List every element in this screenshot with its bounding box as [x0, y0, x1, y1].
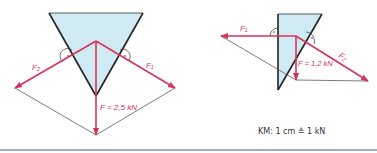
right-wedge-diagram: F₁ F₂ F = 1,2 kN	[221, 14, 368, 90]
label-f2-left: F₂	[32, 63, 40, 72]
force-diagrams: F₂ F₁ F = 2,5 kN F₁ F₂ F = 1,2 kN KM: 1 …	[0, 0, 377, 153]
label-f1-right: F₁	[240, 24, 248, 33]
left-wedge-diagram: F₂ F₁ F = 2,5 kN	[15, 13, 175, 135]
label-f-right: F = 1,2 kN	[298, 59, 333, 68]
label-f-left: F = 2,5 kN	[100, 103, 137, 112]
label-f2-right: F₂	[337, 51, 348, 63]
label-f1-left: F₁	[146, 61, 154, 70]
bottom-separator	[0, 149, 377, 151]
scale-caption: KM: 1 cm ≙ 1 kN	[258, 127, 325, 136]
